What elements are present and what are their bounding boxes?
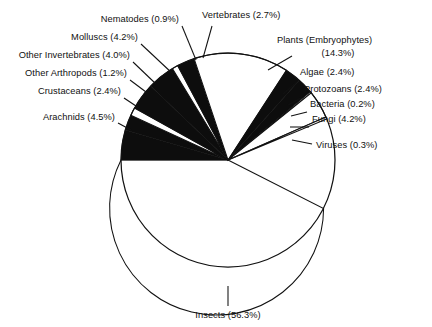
leader-line-vertebrates	[203, 26, 212, 58]
pie-chart-figure: Nematodes (0.9%) Vertebrates (2.7%) Moll…	[0, 0, 432, 327]
leader-line-nematodes	[182, 26, 196, 60]
label-other-arthropods: Other Arthropods (1.2%)	[25, 68, 127, 78]
label-viruses: Viruses (0.3%)	[316, 140, 378, 150]
label-crustaceans: Crustaceans (2.4%)	[38, 86, 121, 96]
label-arachnids: Arachnids (4.5%)	[43, 112, 115, 122]
pie-chart-svg: Nematodes (0.9%) Vertebrates (2.7%) Moll…	[0, 0, 432, 327]
leader-line-other-arthropods	[130, 80, 146, 92]
label-other-invertebrates: Other Invertebrates (4.0%)	[19, 50, 130, 60]
label-fungi: Fungi (4.2%)	[312, 114, 366, 124]
leader-line-other-invertebrates	[133, 62, 156, 84]
pie-slice-insects[interactable]	[110, 160, 324, 315]
leader-line-molluscs	[141, 44, 173, 74]
label-nematodes: Nematodes (0.9%)	[101, 14, 179, 24]
label-plants-line2: (14.3%)	[322, 48, 355, 58]
label-plants-line1: Plants (Embryophytes)	[277, 35, 372, 45]
label-insects: Insects (56.3%)	[195, 310, 260, 320]
label-protozoans: Protozoans (2.4%)	[304, 84, 382, 94]
label-vertebrates: Vertebrates (2.7%)	[202, 10, 280, 20]
leader-line-viruses	[292, 140, 312, 144]
label-molluscs: Molluscs (4.2%)	[71, 32, 138, 42]
pie-slices	[110, 53, 335, 315]
label-algae: Algae (2.4%)	[300, 67, 354, 77]
label-bacteria: Bacteria (0.2%)	[310, 99, 375, 109]
